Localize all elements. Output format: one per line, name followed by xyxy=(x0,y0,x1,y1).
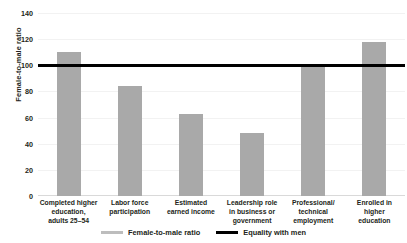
chart-legend: Female-to-male ratio Equality with men xyxy=(0,228,407,237)
x-axis-baseline xyxy=(38,195,405,196)
equality-reference-line xyxy=(38,64,405,67)
category-label-line: education xyxy=(344,216,405,225)
bar xyxy=(240,133,264,196)
x-axis-category-label: Completed highereducation,adults 25–54 xyxy=(38,198,99,225)
category-label-line: Estimated xyxy=(160,198,221,207)
legend-label: Female-to-male ratio xyxy=(128,228,200,237)
bar-swatch-icon xyxy=(101,231,123,234)
y-axis-tick-label: 40 xyxy=(0,139,33,148)
y-axis-tick-label: 140 xyxy=(0,9,33,18)
gridline xyxy=(38,91,405,92)
category-label-line: in business or xyxy=(222,207,283,216)
category-label-line: government xyxy=(222,216,283,225)
legend-item-equality-with-men: Equality with men xyxy=(216,228,306,237)
x-axis-category-label: Professional/technicalemployment xyxy=(283,198,344,225)
y-axis-tick-label: 20 xyxy=(0,165,33,174)
gridline xyxy=(38,144,405,145)
y-axis-tick-label: 0 xyxy=(0,192,33,201)
category-label-line: Leadership role xyxy=(222,198,283,207)
category-label-line: technical xyxy=(283,207,344,216)
category-label-line: Professional/ xyxy=(283,198,344,207)
gridline xyxy=(38,170,405,171)
category-label-line: earned income xyxy=(160,207,221,216)
legend-item-female-to-male-ratio: Female-to-male ratio xyxy=(101,228,200,237)
bar xyxy=(179,114,203,196)
x-axis-category-labels: Completed highereducation,adults 25–54La… xyxy=(38,198,405,230)
bar xyxy=(118,86,142,196)
y-axis-tick-label: 120 xyxy=(0,35,33,44)
bar-chart: Female-to-male ratio 020406080100120140 … xyxy=(0,0,407,243)
category-label-line: Labor force xyxy=(99,198,160,207)
category-label-line: Enrolled in xyxy=(344,198,405,207)
plot-area: 020406080100120140 xyxy=(38,13,405,196)
category-label-line: adults 25–54 xyxy=(38,216,99,225)
x-axis-category-label: Enrolled inhighereducation xyxy=(344,198,405,225)
bar xyxy=(57,52,81,196)
line-swatch-icon xyxy=(216,231,238,234)
gridline xyxy=(38,39,405,40)
category-label-line: education, xyxy=(38,207,99,216)
gridline xyxy=(38,118,405,119)
x-axis-category-label: Estimatedearned income xyxy=(160,198,221,216)
x-axis-category-label: Leadership rolein business orgovernment xyxy=(222,198,283,225)
legend-label: Equality with men xyxy=(243,228,306,237)
category-label-line: employment xyxy=(283,216,344,225)
x-axis-category-label: Labor forceparticipation xyxy=(99,198,160,216)
y-axis-tick-label: 80 xyxy=(0,87,33,96)
y-axis-tick-label: 60 xyxy=(0,113,33,122)
category-label-line: participation xyxy=(99,207,160,216)
category-label-line: Completed higher xyxy=(38,198,99,207)
y-axis-tick-label: 100 xyxy=(0,61,33,70)
category-label-line: higher xyxy=(344,207,405,216)
bar xyxy=(301,67,325,196)
gridline xyxy=(38,13,405,14)
